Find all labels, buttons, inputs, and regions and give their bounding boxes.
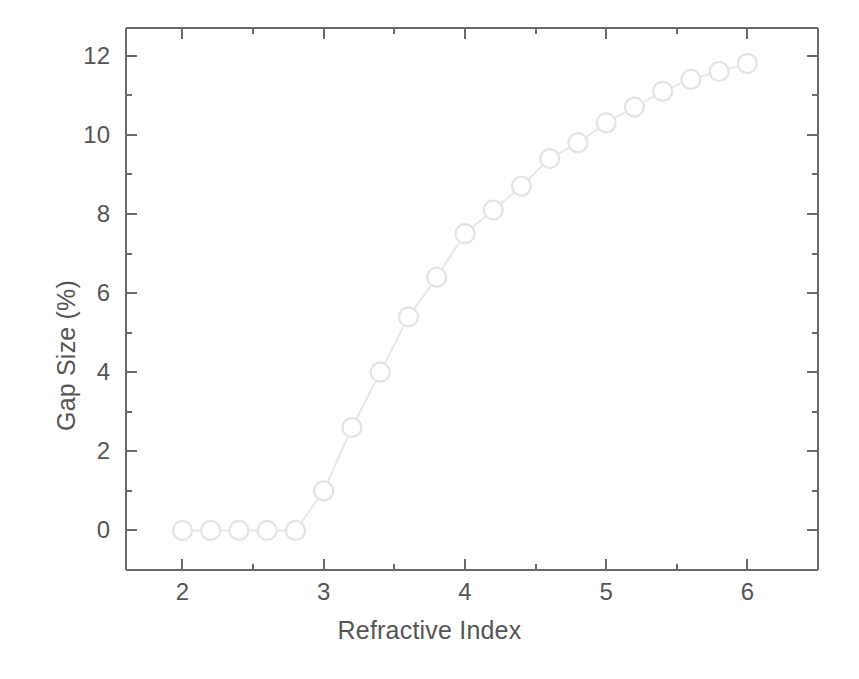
- axis-ticks: [126, 28, 818, 570]
- y-tick-label: 12: [83, 42, 110, 69]
- axes-frame: [126, 28, 818, 570]
- x-axis-title: Refractive Index: [0, 616, 859, 645]
- data-point-marker: [512, 177, 531, 196]
- data-point-marker: [342, 418, 361, 437]
- y-tick-label: 4: [97, 358, 110, 385]
- data-point-marker: [653, 82, 672, 101]
- data-point-marker: [568, 133, 587, 152]
- data-point-marker: [710, 62, 729, 81]
- y-axis-title: Gap Size (%): [52, 280, 81, 431]
- data-point-marker: [738, 54, 757, 73]
- data-point-marker: [258, 521, 277, 540]
- data-point-marker: [173, 521, 192, 540]
- x-tick-label: 4: [458, 578, 471, 605]
- x-tick-label: 5: [599, 578, 612, 605]
- x-tick-label: 3: [317, 578, 330, 605]
- data-point-marker: [229, 521, 248, 540]
- data-point-marker: [484, 200, 503, 219]
- data-point-marker: [681, 70, 700, 89]
- x-tick-label: 2: [176, 578, 189, 605]
- data-point-marker: [286, 521, 305, 540]
- plot-area: 23456024681012: [0, 0, 859, 679]
- data-point-marker: [201, 521, 220, 540]
- y-tick-label: 10: [83, 121, 110, 148]
- y-tick-label: 0: [97, 516, 110, 543]
- y-tick-label: 8: [97, 200, 110, 227]
- data-point-marker: [427, 268, 446, 287]
- data-point-marker: [314, 481, 333, 500]
- chart-figure: 23456024681012 Refractive Index Gap Size…: [0, 0, 859, 679]
- y-tick-label: 6: [97, 279, 110, 306]
- data-point-marker: [455, 224, 474, 243]
- data-point-marker: [371, 363, 390, 382]
- x-tick-label: 6: [741, 578, 754, 605]
- data-point-marker: [399, 307, 418, 326]
- data-point-marker: [597, 113, 616, 132]
- y-tick-label: 2: [97, 437, 110, 464]
- data-series-gap-size: [173, 54, 757, 540]
- series-line: [182, 64, 747, 531]
- data-point-marker: [540, 149, 559, 168]
- data-point-marker: [625, 98, 644, 117]
